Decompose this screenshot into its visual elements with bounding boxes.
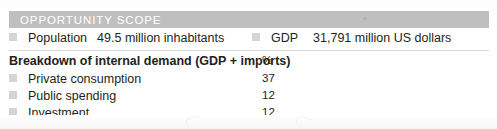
- square-bullet-icon: [9, 33, 17, 41]
- table-row: Public spending 12: [9, 89, 489, 105]
- square-bullet-icon: [9, 91, 17, 99]
- breakdown-heading: Breakdown of internal demand (GDP + impo…: [9, 54, 290, 68]
- square-bullet-icon: [9, 74, 17, 82]
- unit-column-header: %: [262, 54, 272, 66]
- gdp-value: 31,791 million US dollars: [313, 31, 451, 45]
- gdp-cell: GDP 31,791 million US dollars: [252, 31, 451, 45]
- scan-margin-top: [0, 0, 497, 8]
- population-value: 49.5 million inhabitants: [97, 31, 224, 45]
- row-value: 37: [262, 72, 275, 84]
- opportunity-scope-panel: OPPORTUNITY SCOPE Population 49.5 millio…: [0, 0, 497, 129]
- panel-title: OPPORTUNITY SCOPE: [9, 14, 161, 26]
- summary-row: Population 49.5 million inhabitants GDP …: [9, 31, 489, 47]
- population-cell: Population 49.5 million inhabitants: [9, 31, 224, 45]
- scan-margin-bottom: [0, 115, 497, 129]
- panel-header: OPPORTUNITY SCOPE: [9, 11, 489, 28]
- row-label: Private consumption: [28, 72, 141, 86]
- scan-speck: [363, 17, 367, 20]
- square-bullet-icon: [252, 33, 260, 41]
- gdp-label: GDP: [271, 31, 298, 45]
- row-value: 12: [262, 89, 275, 101]
- row-label: Public spending: [28, 89, 116, 103]
- section-divider: [9, 50, 489, 51]
- population-label: Population: [28, 31, 87, 45]
- breakdown-heading-row: Breakdown of internal demand (GDP + impo…: [9, 54, 489, 70]
- table-row: Private consumption 37: [9, 72, 489, 88]
